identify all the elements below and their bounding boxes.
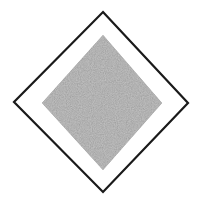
diamond-figure-svg (0, 0, 197, 203)
figure-canvas (0, 0, 197, 203)
